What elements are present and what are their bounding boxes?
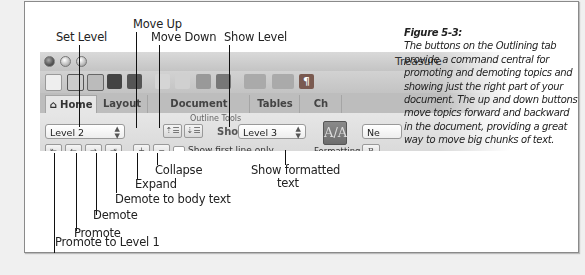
leader-line [136, 32, 137, 128]
promote-to-level1-button[interactable]: ⇤ [45, 144, 62, 151]
tab-document-elements[interactable]: Document Elements [149, 95, 250, 113]
set-level-select[interactable]: Level 2 ▲▼ [45, 124, 125, 139]
home-icon: ⌂ [49, 99, 56, 110]
undo-icon[interactable] [244, 74, 266, 89]
callout-promote: Promote [74, 227, 121, 240]
gallery-icon[interactable] [67, 74, 84, 91]
leader-line [159, 45, 160, 128]
demote-button[interactable]: → [85, 144, 102, 151]
leader-line [76, 153, 77, 231]
leader-line [137, 153, 138, 180]
new-document-icon[interactable] [45, 74, 62, 91]
print-icon[interactable] [127, 74, 142, 89]
save-icon[interactable] [107, 74, 122, 89]
minimize-window-button[interactable] [60, 56, 71, 67]
figure-caption-text: The buttons on the Outlining tab provide… [404, 40, 577, 145]
move-up-button[interactable]: ⇡☰ [163, 124, 182, 138]
close-window-button[interactable] [44, 56, 55, 67]
redo-icon[interactable] [272, 74, 294, 89]
bold-button[interactable]: B [362, 144, 380, 151]
group-title: Outline Tools [190, 114, 241, 123]
expand-button[interactable]: + [133, 144, 150, 151]
callout-demote-to-body: Demote to body text [115, 193, 231, 206]
callout-set-level: Set Level [56, 31, 107, 44]
show-first-line-label: Show first line only [188, 145, 274, 151]
paste-icon[interactable] [196, 74, 211, 89]
move-down-button[interactable]: ⇣☰ [184, 124, 203, 138]
callout-expand: Expand [135, 178, 177, 191]
leader-line [229, 45, 230, 127]
callout-collapse: Collapse [155, 164, 202, 177]
callout-demote: Demote [93, 209, 138, 222]
callout-show-formatted-2: text [277, 177, 299, 190]
open-icon[interactable] [87, 74, 104, 91]
cut-icon[interactable] [155, 74, 170, 89]
leader-line [96, 153, 97, 215]
updown-icon: ▲▼ [115, 125, 120, 140]
tab-charts[interactable]: Ch [301, 95, 342, 113]
leader-line [79, 45, 80, 127]
leader-line [116, 153, 117, 193]
pilcrow-icon[interactable]: ¶ [299, 74, 314, 89]
tab-layout[interactable]: Layout [97, 95, 148, 113]
promote-button[interactable]: ← [65, 144, 82, 151]
collapse-button[interactable]: − [153, 144, 170, 151]
show-level-select[interactable]: Level 3 ▲▼ [238, 124, 306, 139]
figure-caption: Figure 5-3: The buttons on the Outlining… [404, 26, 579, 147]
formatting-label: Formatting [314, 146, 360, 151]
copy-icon[interactable] [175, 74, 190, 89]
style-select[interactable]: Ne [362, 124, 402, 139]
figure-title: Figure 5-3: [404, 26, 579, 39]
callout-show-level: Show Level [224, 31, 287, 44]
updown-icon: ▲▼ [296, 125, 301, 140]
show-first-line-checkbox[interactable] [173, 146, 185, 151]
callout-move-down: Move Down [151, 31, 216, 44]
zoom-window-button[interactable] [76, 56, 87, 67]
tab-tables[interactable]: Tables [251, 95, 300, 113]
show-formatting-button[interactable]: A/A [323, 121, 347, 145]
demote-to-body-button[interactable]: ⇥ [105, 144, 122, 151]
tab-home[interactable]: ⌂ Home [45, 95, 97, 114]
